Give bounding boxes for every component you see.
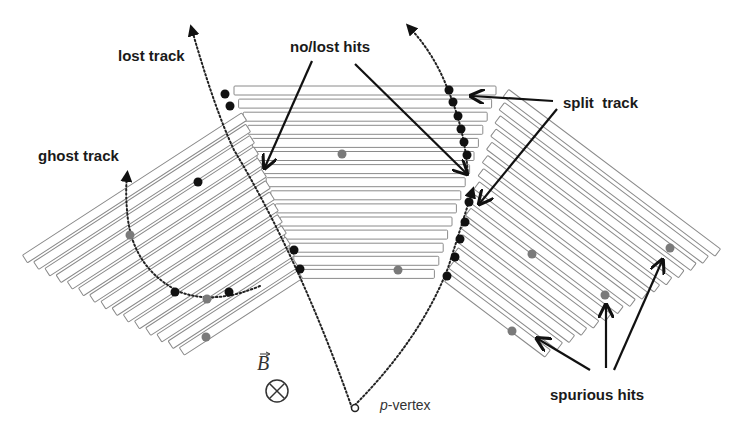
hit-spurious	[126, 231, 135, 240]
hit-real	[225, 288, 234, 297]
hit-real	[296, 265, 305, 274]
detector-strip	[285, 230, 448, 239]
hit-real	[465, 198, 474, 207]
p-vertex-italic: p	[379, 397, 388, 413]
detector-strip	[243, 112, 487, 121]
label-no-lost-hits: no/lost hits	[290, 38, 370, 55]
hit-real	[443, 272, 452, 281]
hit-real	[456, 235, 465, 244]
hit-spurious	[203, 295, 212, 304]
detector-strip	[257, 152, 474, 161]
hit-real	[194, 178, 203, 187]
hit-real	[463, 151, 472, 160]
label-spurious-hits: spurious hits	[550, 386, 644, 403]
hit-spurious	[666, 244, 675, 253]
hit-spurious	[338, 150, 347, 159]
hit-real	[171, 288, 180, 297]
detector-strip	[266, 178, 465, 187]
detector-strip	[294, 256, 439, 265]
hit-real	[461, 218, 470, 227]
p-vertex-rest: -vertex	[388, 397, 431, 413]
hit-spurious	[601, 291, 610, 300]
label-p-vertex: p-vertex	[379, 397, 431, 413]
b-field-symbol: B	[257, 352, 288, 402]
hit-spurious	[528, 250, 537, 259]
hit-spurious	[202, 333, 211, 342]
detector-strip	[280, 217, 452, 226]
hit-real	[221, 90, 230, 99]
detector-strip	[234, 86, 496, 95]
detector-strip	[289, 243, 443, 252]
detector-strip	[298, 269, 434, 278]
hit-real	[290, 246, 299, 255]
label-lost-track: lost track	[118, 47, 185, 64]
detector-strip	[262, 165, 470, 174]
hit-spurious	[508, 327, 517, 336]
hit-real	[457, 125, 466, 134]
p-vertex-marker	[352, 405, 359, 412]
tracking-diagram: lost track no/lost hits split track ghos…	[0, 0, 739, 432]
hit-real	[451, 253, 460, 262]
hit-real	[445, 86, 454, 95]
hit-real	[454, 112, 463, 121]
detector-strip	[252, 138, 478, 147]
hit-real	[449, 98, 458, 107]
label-split-track: split track	[563, 94, 639, 111]
detector-strip	[271, 191, 461, 200]
hit-real	[460, 138, 469, 147]
detector-strip	[275, 204, 456, 213]
right-stack	[444, 89, 720, 357]
hit-spurious	[394, 266, 403, 275]
label-ghost-track: ghost track	[38, 147, 120, 164]
hit-real	[226, 102, 235, 111]
